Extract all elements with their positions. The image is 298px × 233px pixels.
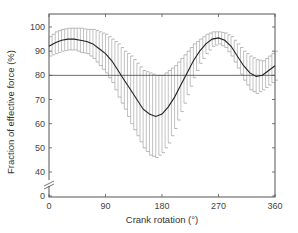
- chart: 0405060708090100 090180270360 Crank rota…: [0, 0, 298, 233]
- y-tick-label: 0: [40, 191, 45, 201]
- y-tick-label: 50: [35, 143, 45, 153]
- x-tick-label: 0: [46, 201, 51, 211]
- y-tick-label: 90: [35, 46, 45, 56]
- x-tick-label: 180: [154, 201, 169, 211]
- y-tick-label: 70: [35, 95, 45, 105]
- error-bars: [49, 28, 278, 157]
- y-tick-label: 40: [35, 167, 45, 177]
- y-tick-label: 60: [35, 119, 45, 129]
- x-tick-label: 270: [211, 201, 226, 211]
- y-axis-label: Fraction of effective force (%): [5, 50, 16, 174]
- x-axis-ticks: 090180270360: [46, 14, 282, 211]
- y-tick-label: 100: [30, 22, 45, 32]
- x-axis-label: Crank rotation (°): [126, 214, 198, 225]
- y-tick-label: 80: [35, 70, 45, 80]
- x-tick-label: 360: [267, 201, 282, 211]
- x-tick-label: 90: [100, 201, 110, 211]
